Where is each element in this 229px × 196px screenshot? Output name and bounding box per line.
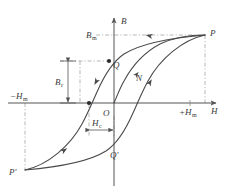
label-h-max-negative: −Hm bbox=[10, 91, 28, 102]
label-point-q: Q bbox=[113, 60, 120, 70]
label-point-p-prime: P' bbox=[8, 167, 17, 177]
hysteresis-diagram-svg: B H O Bm Br Hc −Hm +Hm P bbox=[0, 0, 229, 196]
label-h-coercivity-subscript: c bbox=[99, 123, 102, 129]
axis-label-b: B bbox=[121, 16, 127, 26]
label-h-max-positive-base: +H bbox=[179, 107, 192, 117]
text-labels: B H O Bm Br Hc −Hm +Hm P bbox=[8, 16, 218, 177]
point-marker-coercive bbox=[87, 101, 91, 105]
label-h-max-negative-subscript: m bbox=[23, 96, 28, 102]
hysteresis-loop-figure: B H O Bm Br Hc −Hm +Hm P bbox=[0, 0, 229, 196]
initial-magnetization-curve bbox=[114, 35, 205, 103]
measurement-arrows bbox=[60, 61, 113, 130]
label-b-remanence: Br bbox=[55, 77, 63, 88]
label-h-coercivity: Hc bbox=[91, 118, 102, 129]
label-b-max-subscript: m bbox=[92, 35, 97, 41]
label-h-max-positive-subscript: m bbox=[192, 112, 197, 118]
point-markers bbox=[87, 59, 111, 105]
label-h-max-positive: +Hm bbox=[179, 107, 197, 118]
label-h-coercivity-base: H bbox=[91, 118, 99, 128]
point-marker-Q bbox=[107, 59, 111, 63]
origin-label-o: O bbox=[103, 108, 110, 118]
label-b-max: Bm bbox=[86, 30, 97, 41]
label-b-remanence-subscript: r bbox=[61, 82, 63, 88]
arrow-upper-branch-Q-icon bbox=[92, 78, 100, 87]
label-point-q-prime: Q' bbox=[110, 150, 119, 160]
axis-label-h: H bbox=[210, 106, 218, 116]
label-h-max-negative-base: −H bbox=[10, 91, 23, 101]
label-point-n: N bbox=[135, 73, 143, 83]
arrow-upper-branch-left-icon bbox=[145, 32, 153, 39]
label-point-p: P bbox=[209, 28, 216, 38]
